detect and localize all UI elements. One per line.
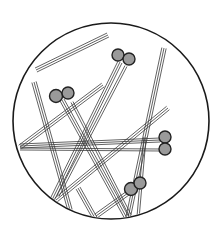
sphere [123,53,135,65]
sphere [112,49,124,61]
sphere [134,177,146,189]
sphere [159,143,171,155]
sphere [62,87,74,99]
sphere [159,131,171,143]
sphere [50,90,63,103]
crystal-field-diagram [0,0,224,240]
